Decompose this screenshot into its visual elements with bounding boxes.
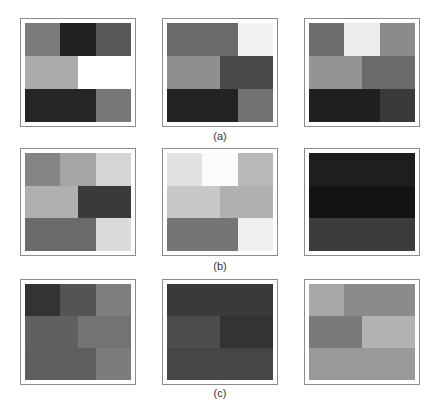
- mosaic-row: [167, 89, 273, 122]
- mosaic-cell: [309, 89, 380, 122]
- mosaic-cell: [309, 316, 362, 348]
- mosaic: [25, 23, 131, 122]
- mosaic-row: [309, 284, 415, 316]
- mosaic-cell: [96, 153, 131, 186]
- mosaic-cell: [238, 89, 273, 122]
- mosaic-cell: [344, 23, 379, 56]
- mosaic: [25, 284, 131, 380]
- mosaic-cell: [309, 186, 415, 219]
- mosaic-row: [25, 153, 131, 186]
- panel-a-2: [162, 18, 278, 127]
- mosaic-cell: [238, 23, 273, 56]
- mosaic: [309, 284, 415, 380]
- mosaic-row: [167, 186, 273, 219]
- mosaic-cell: [238, 218, 273, 251]
- mosaic-cell: [167, 218, 238, 251]
- mosaic-cell: [167, 56, 220, 89]
- mosaic-cell: [78, 56, 131, 89]
- mosaic-cell: [380, 23, 415, 56]
- panel-b-2: [162, 148, 278, 256]
- mosaic-cell: [167, 316, 220, 348]
- mosaic-cell: [25, 89, 96, 122]
- panel-c-3: [304, 279, 420, 385]
- mosaic-cell: [25, 218, 96, 251]
- panel-a-1: [20, 18, 136, 127]
- mosaic-cell: [220, 56, 273, 89]
- mosaic-cell: [362, 56, 415, 89]
- mosaic-cell: [96, 218, 131, 251]
- mosaic-row: [167, 348, 273, 380]
- mosaic-cell: [25, 23, 60, 56]
- mosaic-cell: [96, 284, 131, 316]
- mosaic-row: [25, 23, 131, 56]
- panel-a-3: [304, 18, 420, 127]
- mosaic-row: [167, 153, 273, 186]
- mosaic-cell: [25, 153, 60, 186]
- mosaic-row: [25, 218, 131, 251]
- mosaic-row: [167, 218, 273, 251]
- mosaic-cell: [167, 153, 202, 186]
- mosaic-row: [25, 348, 131, 380]
- mosaic-row: [309, 56, 415, 89]
- mosaic-cell: [220, 316, 273, 348]
- mosaic-cell: [167, 23, 238, 56]
- mosaic-cell: [25, 348, 96, 380]
- mosaic-cell: [78, 186, 131, 219]
- mosaic-row: [309, 348, 415, 380]
- mosaic-cell: [220, 186, 273, 219]
- mosaic-row: [309, 153, 415, 186]
- mosaic-cell: [309, 284, 344, 316]
- mosaic-cell: [96, 89, 131, 122]
- panel-b-3: [304, 148, 420, 256]
- mosaic-cell: [238, 153, 273, 186]
- mosaic-cell: [309, 218, 415, 251]
- mosaic-row: [309, 23, 415, 56]
- caption-b: (b): [190, 260, 250, 272]
- mosaic-cell: [167, 348, 273, 380]
- mosaic-row: [25, 56, 131, 89]
- mosaic-cell: [25, 56, 78, 89]
- panel-c-1: [20, 279, 136, 385]
- mosaic-row: [309, 218, 415, 251]
- mosaic-cell: [25, 186, 78, 219]
- mosaic-row: [25, 316, 131, 348]
- mosaic-row: [309, 186, 415, 219]
- mosaic-cell: [60, 23, 95, 56]
- mosaic: [309, 153, 415, 251]
- mosaic-cell: [380, 89, 415, 122]
- mosaic-cell: [362, 316, 415, 348]
- mosaic-row: [25, 284, 131, 316]
- mosaic-cell: [344, 284, 415, 316]
- mosaic-cell: [25, 316, 78, 348]
- mosaic-row: [25, 89, 131, 122]
- mosaic-row: [167, 284, 273, 316]
- mosaic-row: [309, 316, 415, 348]
- mosaic-cell: [167, 186, 220, 219]
- mosaic-cell: [309, 153, 415, 186]
- mosaic-cell: [96, 23, 131, 56]
- mosaic-row: [167, 23, 273, 56]
- mosaic-cell: [25, 284, 60, 316]
- mosaic-cell: [309, 348, 415, 380]
- mosaic-row: [309, 89, 415, 122]
- caption-a: (a): [190, 130, 250, 142]
- mosaic-row: [25, 186, 131, 219]
- mosaic-cell: [167, 89, 238, 122]
- mosaic-cell: [60, 153, 95, 186]
- mosaic-row: [167, 56, 273, 89]
- mosaic-cell: [96, 348, 131, 380]
- mosaic-row: [167, 316, 273, 348]
- mosaic: [167, 284, 273, 380]
- mosaic-cell: [167, 284, 273, 316]
- mosaic-cell: [202, 153, 237, 186]
- panel-b-1: [20, 148, 136, 256]
- panel-c-2: [162, 279, 278, 385]
- mosaic: [167, 153, 273, 251]
- caption-c: (c): [190, 387, 250, 399]
- mosaic: [309, 23, 415, 122]
- mosaic: [25, 153, 131, 251]
- mosaic-cell: [309, 23, 344, 56]
- mosaic-cell: [60, 284, 95, 316]
- mosaic: [167, 23, 273, 122]
- mosaic-cell: [309, 56, 362, 89]
